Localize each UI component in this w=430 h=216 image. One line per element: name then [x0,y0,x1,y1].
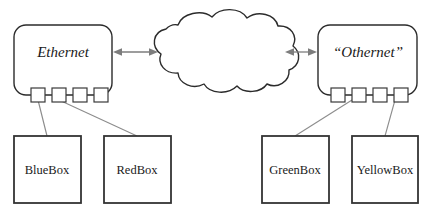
internet-cloud[interactable] [154,10,298,93]
arrow-head-left-west [113,48,122,56]
arrow-head-right-east [308,48,317,56]
othernet-label: “Othernet” [333,44,403,60]
ethernet-port-3[interactable] [73,88,87,102]
redbox-label: RedBox [117,163,159,177]
ethernet-port-4[interactable] [94,88,108,102]
othernet-port-4[interactable] [394,88,408,102]
diagram-canvas: Ethernet “Othernet” [0,0,430,216]
ethernet-port-1[interactable] [31,88,45,102]
othernet-port-3[interactable] [373,88,387,102]
host-yellowbox[interactable]: YellowBox [352,136,418,203]
host-redbox[interactable]: RedBox [104,136,171,203]
link-redbox-to-ethernet-port-1 [59,100,137,136]
link-yellowbox-to-othernet-port-4 [385,100,395,136]
connector-ethernet-to-cloud [113,48,158,56]
ethernet-port-2[interactable] [52,88,66,102]
link-greenbox-to-othernet-port-2 [295,100,352,136]
network-ethernet[interactable]: Ethernet [14,25,112,102]
network-diagram: Ethernet “Othernet” [0,0,430,216]
cloud-shape [154,10,298,93]
host-links [38,100,395,136]
host-greenbox[interactable]: GreenBox [262,136,329,203]
greenbox-label: GreenBox [269,163,321,177]
host-bluebox[interactable]: BlueBox [14,136,81,203]
othernet-port-1[interactable] [331,88,345,102]
bluebox-label: BlueBox [25,163,70,177]
link-bluebox-to-ethernet-port-2 [38,100,47,136]
ethernet-label: Ethernet [36,44,89,60]
othernet-port-2[interactable] [352,88,366,102]
network-othernet[interactable]: “Othernet” [318,25,417,102]
yellowbox-label: YellowBox [357,163,414,177]
